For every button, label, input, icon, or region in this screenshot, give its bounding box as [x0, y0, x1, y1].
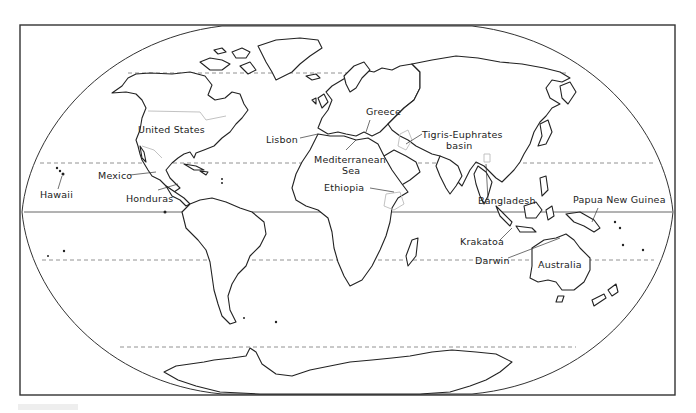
philippines: [540, 176, 548, 196]
label-australia: Australia: [538, 259, 582, 270]
label-mexico: Mexico: [98, 170, 132, 181]
pacific-island: [221, 178, 223, 180]
label-mediterranean: Mediterranean: [314, 154, 386, 165]
pacific-island: [622, 244, 624, 246]
label-sea: Sea: [342, 165, 360, 176]
sumatra: [496, 206, 512, 226]
world-map: United States Mexico Hawaii Honduras Lis…: [0, 0, 696, 413]
label-basin: basin: [446, 140, 472, 151]
new-zealand: [592, 284, 618, 306]
pacific-island: [47, 255, 49, 257]
japan: [538, 120, 552, 146]
iceland: [306, 74, 320, 80]
pacific-island: [221, 182, 223, 184]
label-honduras: Honduras: [126, 193, 173, 204]
pacific-island: [63, 250, 65, 252]
label-ethiopia: Ethiopia: [324, 182, 364, 193]
pacific-island: [642, 249, 644, 251]
label-bangladesh: Bangladesh: [478, 195, 536, 206]
java: [516, 226, 536, 232]
label-greece: Greece: [366, 106, 401, 117]
south-america: [182, 198, 266, 324]
label-tigris-euphrates: Tigris-Euphrates: [421, 129, 503, 140]
pacific-island: [164, 211, 167, 214]
figure-caption-fragment: [18, 404, 78, 410]
cuba: [184, 164, 204, 170]
pacific-island: [275, 321, 277, 323]
hawaii-leader: [58, 176, 62, 189]
antarctica: [164, 348, 512, 394]
hispaniola: [200, 171, 208, 175]
arctic-islands: [200, 48, 256, 74]
tasmania: [556, 296, 564, 302]
madagascar: [406, 238, 418, 266]
hawaii-islands-2: [59, 170, 61, 172]
falklands: [243, 317, 245, 319]
label-papua-new-guinea: Papua New Guinea: [573, 194, 666, 205]
hawaii-islands: [56, 167, 58, 169]
pacific-island: [619, 227, 621, 229]
lisbon-leader: [300, 134, 318, 138]
british-isles: [312, 94, 328, 108]
pacific-island: [614, 221, 616, 223]
label-hawaii: Hawaii: [40, 189, 73, 200]
kamchatka: [560, 82, 576, 104]
label-krakatoa: Krakatoa: [460, 236, 504, 247]
label-lisbon: Lisbon: [266, 134, 298, 145]
label-darwin: Darwin: [475, 255, 510, 266]
hawaii-islands-3: [62, 173, 65, 176]
label-united-states: United States: [138, 124, 205, 135]
sulawesi: [546, 206, 554, 220]
papua-leader: [592, 208, 598, 222]
greenland: [258, 38, 322, 80]
